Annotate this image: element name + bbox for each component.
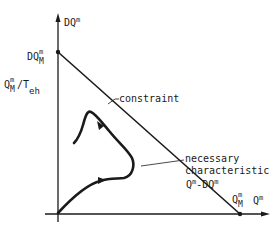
y-axis-arrow-icon [56, 13, 61, 22]
y-tick-dqm-max: DQmM [27, 52, 39, 62]
y-tick-base: DQ [27, 51, 39, 62]
necessary-characteristic-label-line2: characteristic [185, 166, 269, 176]
y-intercept-point [56, 50, 60, 54]
x-axis-label-sup: m [259, 194, 263, 202]
y-tick-sup: m [10, 75, 14, 85]
x-axis-label: Qm [253, 196, 263, 206]
y-axis-label-base: DQ [64, 17, 76, 28]
y-axis-label-sup: m [76, 16, 80, 24]
necessary-characteristic-label-line3: Qm-DQm [186, 180, 219, 190]
y-tick-sup: m [39, 47, 43, 57]
necessary-characteristic-curve [58, 112, 133, 213]
constraint-label: constraint [119, 94, 179, 104]
formula-sup: m [214, 178, 218, 186]
curve-direction-arrow-icon [98, 177, 106, 184]
x-tick-qm-max: QmM [232, 195, 238, 205]
x-axis-arrow-icon [261, 212, 270, 217]
x-tick-sup: m [238, 190, 242, 200]
y-tick-sub: M [10, 85, 15, 95]
y-tick-suffix-sub: eh [29, 86, 40, 96]
y-tick-suffix: /T [17, 79, 29, 90]
x-tick-sub: M [238, 200, 243, 210]
y-tick-sub: M [39, 57, 44, 67]
necessary-characteristic-label-line1: necessary [185, 154, 239, 164]
formula-mid: -DQ [196, 179, 214, 190]
y-tick-qm-max-over-teh: QmM/Teh [4, 80, 40, 90]
necessary-characteristic-leader [141, 160, 184, 166]
y-axis-label: DQm [64, 18, 80, 28]
x-intercept-point [238, 212, 242, 216]
